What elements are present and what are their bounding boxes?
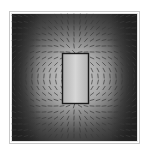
field-arrow bbox=[36, 40, 41, 41]
field-arrow bbox=[32, 74, 33, 79]
bar-magnet bbox=[63, 54, 89, 104]
vector-field-plot bbox=[0, 0, 151, 154]
field-arrow bbox=[116, 74, 117, 79]
